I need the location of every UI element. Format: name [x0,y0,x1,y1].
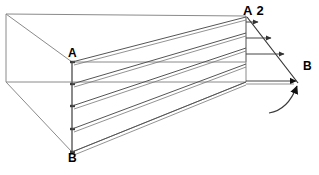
label-b-bottom: B [68,152,77,164]
pressure-ray-5 [72,82,246,152]
label-a: A [68,47,77,59]
box-top-left-edge [6,14,72,62]
box-top-back-edge [6,14,246,16]
prism-pressure-diagram [0,0,319,175]
rotation-curved-arrow [269,86,297,113]
figure-canvas: A A 2 B B [0,0,319,175]
pressure-ray-5b [74,85,246,155]
pressure-ray-1 [72,17,246,62]
rotation-arc-path [269,86,297,113]
pressure-rays [72,17,246,152]
label-b-right: B [303,60,312,72]
box-bottom-left-edge [6,82,72,152]
pressure-ray-4 [72,64,246,129]
pressure-ray-3b [74,51,246,109]
pressure-triangle-hypotenuse [247,17,298,83]
box-outline [6,14,246,152]
pressure-triangle [246,17,298,84]
label-a2: A 2 [243,4,264,17]
